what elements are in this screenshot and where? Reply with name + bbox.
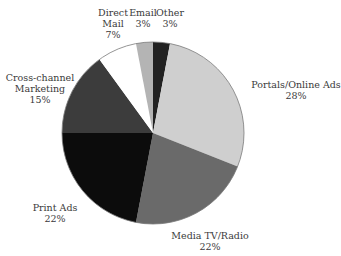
label-direct-mail-line1: Direct — [98, 7, 128, 18]
label-other: Other 3% — [156, 7, 184, 29]
label-portals-pct: 28% — [251, 90, 340, 101]
label-cross-channel: Cross-channel Marketing 15% — [6, 72, 75, 105]
label-email-pct: 3% — [129, 18, 157, 29]
label-media-tv-radio-name: Media TV/Radio — [171, 230, 248, 241]
label-direct-mail-pct: 7% — [98, 29, 128, 40]
label-direct-mail: Direct Mail 7% — [98, 7, 128, 40]
label-email-name: Email — [129, 7, 157, 18]
label-media-tv-radio-pct: 22% — [171, 241, 248, 252]
label-cross-channel-line1: Cross-channel — [6, 72, 75, 83]
label-email: Email 3% — [129, 7, 157, 29]
label-direct-mail-line2: Mail — [98, 18, 128, 29]
label-other-name: Other — [156, 7, 184, 18]
label-print-ads-name: Print Ads — [33, 202, 78, 213]
label-other-pct: 3% — [156, 18, 184, 29]
label-portals-name: Portals/Online Ads — [251, 79, 340, 90]
label-print-ads-pct: 22% — [33, 213, 78, 224]
label-portals: Portals/Online Ads 28% — [251, 79, 340, 101]
label-cross-channel-line2: Marketing — [6, 83, 75, 94]
label-print-ads: Print Ads 22% — [33, 202, 78, 224]
label-cross-channel-pct: 15% — [6, 94, 75, 105]
label-media-tv-radio: Media TV/Radio 22% — [171, 230, 248, 252]
